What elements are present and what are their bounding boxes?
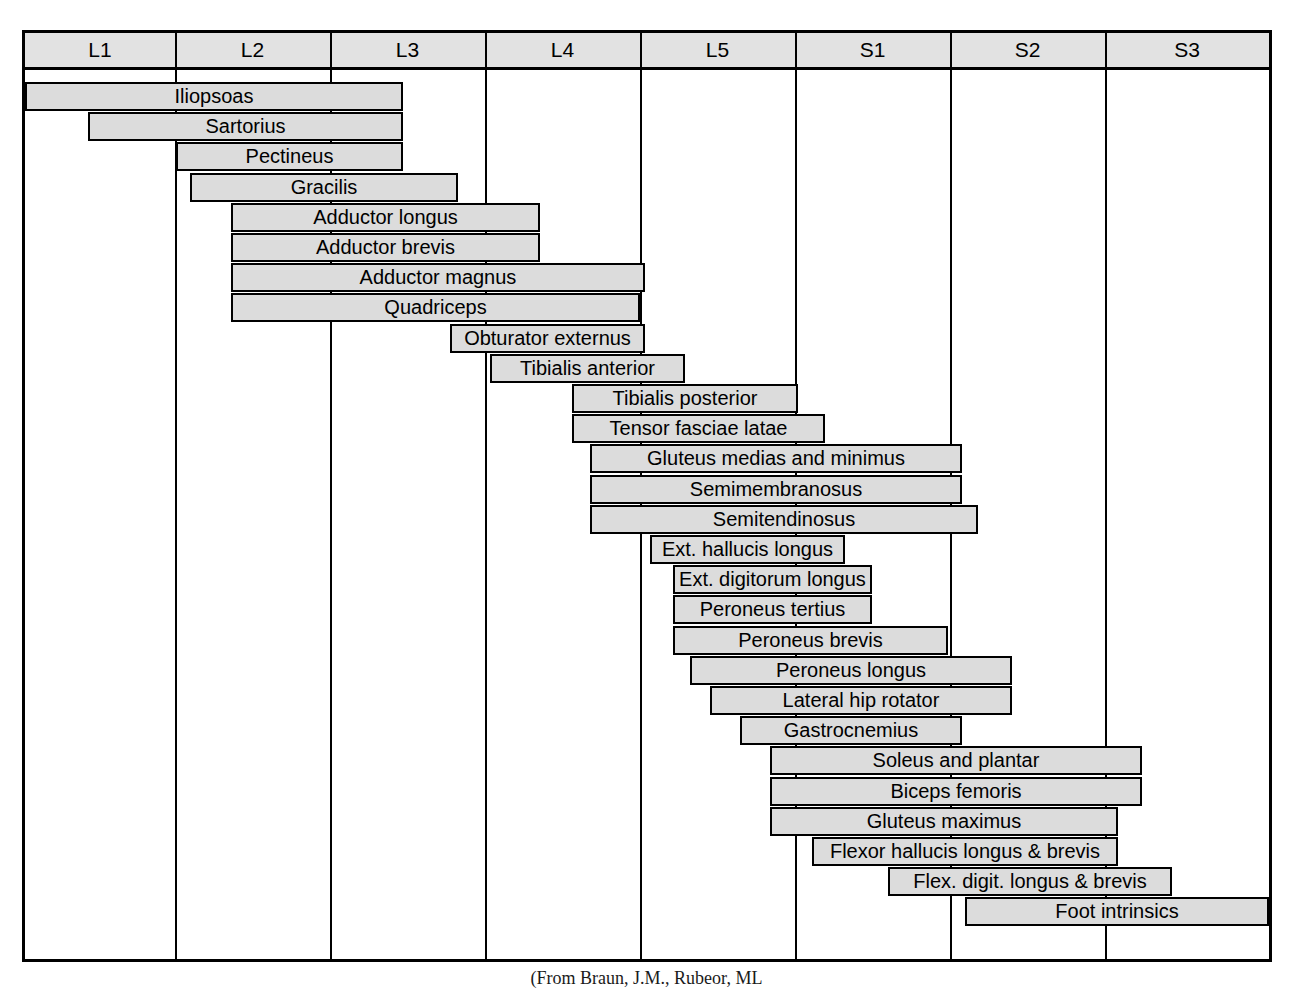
header-cell-l3: L3	[330, 33, 485, 67]
muscle-bar: Tensor fasciae latae	[572, 414, 825, 443]
muscle-bar: Biceps femoris	[770, 777, 1142, 806]
muscle-bar: Tibialis anterior	[490, 354, 685, 383]
muscle-bar: Semimembranosus	[590, 475, 962, 504]
muscle-bars-plot-area: IliopsoasSartoriusPectineusGracilisAdduc…	[25, 70, 1269, 959]
muscle-bar: Flexor hallucis longus & brevis	[812, 837, 1118, 866]
header-cell-l2: L2	[175, 33, 330, 67]
muscle-bar: Ext. hallucis longus	[650, 535, 845, 564]
muscle-bar: Flex. digit. longus & brevis	[888, 867, 1172, 896]
muscle-bar: Peroneus longus	[690, 656, 1012, 685]
muscle-bar: Adductor longus	[231, 203, 540, 232]
muscle-bar: Sartorius	[88, 112, 403, 141]
muscle-bar: Semitendinosus	[590, 505, 978, 534]
muscle-bar: Tibialis posterior	[572, 384, 798, 413]
muscle-bar: Lateral hip rotator	[710, 686, 1012, 715]
header-cell-l4: L4	[485, 33, 640, 67]
muscle-bar: Peroneus tertius	[673, 595, 872, 624]
muscle-bar: Peroneus brevis	[673, 626, 948, 655]
muscle-bar: Gluteus maximus	[770, 807, 1118, 836]
muscle-bar: Ext. digitorum longus	[673, 565, 872, 594]
muscle-bar: Gracilis	[190, 173, 458, 202]
header-cell-s3: S3	[1105, 33, 1269, 67]
header-cell-s2: S2	[950, 33, 1105, 67]
column-divider-l2	[175, 33, 177, 959]
muscle-bar: Adductor brevis	[231, 233, 540, 262]
header-cell-l5: L5	[640, 33, 795, 67]
muscle-bar: Soleus and plantar	[770, 746, 1142, 775]
root-level-header-row: L1L2L3L4L5S1S2S3	[25, 33, 1269, 70]
innervation-chart: L1L2L3L4L5S1S2S3 IliopsoasSartoriusPecti…	[0, 0, 1293, 993]
muscle-bar: Quadriceps	[231, 293, 640, 322]
muscle-bar: Adductor magnus	[231, 263, 645, 292]
figure-caption: (From Braun, J.M., Rubeor, ML	[0, 968, 1293, 993]
header-cell-s1: S1	[795, 33, 950, 67]
muscle-bar: Obturator externus	[450, 324, 645, 353]
chart-grid-frame: L1L2L3L4L5S1S2S3 IliopsoasSartoriusPecti…	[22, 30, 1272, 962]
muscle-bar: Iliopsoas	[25, 82, 403, 111]
muscle-bar: Pectineus	[176, 142, 403, 171]
column-divider-l4	[485, 33, 487, 959]
muscle-bar: Gastrocnemius	[740, 716, 962, 745]
muscle-bar: Foot intrinsics	[965, 897, 1269, 926]
header-cell-l1: L1	[25, 33, 175, 67]
muscle-bar: Gluteus medias and minimus	[590, 444, 962, 473]
